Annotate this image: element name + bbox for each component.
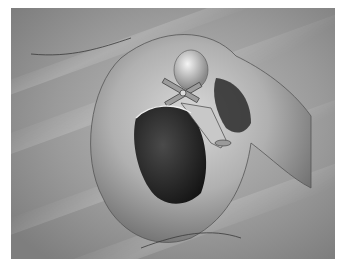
illustration [11, 8, 335, 259]
prosthesis-head [174, 50, 208, 90]
illustration-canvas [11, 8, 335, 259]
prosthesis-foot [215, 140, 231, 146]
